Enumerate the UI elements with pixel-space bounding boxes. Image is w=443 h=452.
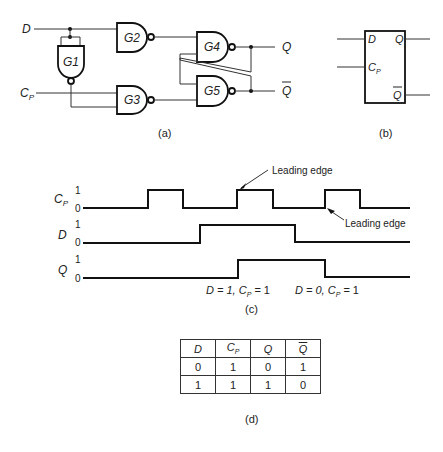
gate-g4-label: G4 — [204, 40, 220, 54]
q-low-label: 0 — [75, 273, 81, 284]
output-q-label: Q — [282, 40, 291, 54]
condition-label-1: D = 1, CP = 1 — [206, 284, 270, 298]
gate-g2-label: G2 — [124, 31, 140, 45]
leading-edge-label-2: Leading edge — [345, 218, 406, 229]
block-symbol-b: D CP Q Q (b) — [337, 31, 430, 139]
cell: 0 — [181, 358, 216, 376]
input-cp-label: CP — [20, 86, 35, 102]
header-qbar: Q — [286, 340, 321, 358]
pin-d-label: D — [368, 33, 376, 45]
circuit-a: D G1 CP G2 G3 G4 — [20, 22, 291, 139]
arrowhead — [239, 183, 246, 190]
header-cp: CP — [216, 340, 251, 358]
cell: 1 — [251, 376, 286, 394]
signal-cp-label: CP — [54, 192, 69, 208]
caption-b: (b) — [379, 127, 392, 139]
pin-q-label: Q — [395, 33, 404, 45]
leading-edge-label-1: Leading edge — [272, 165, 333, 176]
signal-q-label: Q — [58, 263, 67, 277]
timing-diagram-c: CP 1 0 D 1 0 Q 1 0 Leading edge Leading … — [54, 165, 410, 315]
signal-d-label: D — [58, 228, 67, 242]
table-row: 0 1 0 1 — [181, 358, 321, 376]
cp-high-label: 1 — [75, 185, 81, 196]
condition-label-2: D = 0, CP = 1 — [295, 284, 359, 298]
cell: 0 — [251, 358, 286, 376]
table-row: 1 1 1 0 — [181, 376, 321, 394]
waveform-cp — [83, 190, 410, 208]
caption-c: (c) — [245, 303, 258, 315]
truth-table-d: D CP Q Q 0 1 0 1 1 1 1 0 — [180, 339, 321, 394]
g3-bubble — [148, 97, 154, 103]
waveform-q — [83, 260, 410, 278]
output-qbar-label: Q — [282, 84, 291, 98]
g4-bubble — [229, 44, 235, 50]
header-q: Q — [251, 340, 286, 358]
caption-a: (a) — [158, 127, 171, 139]
d-high-label: 1 — [75, 219, 81, 230]
gate-g3-label: G3 — [124, 93, 140, 107]
gate-g1-label: G1 — [63, 55, 79, 69]
d-low-label: 0 — [75, 237, 81, 248]
g1-bubble — [68, 78, 74, 84]
gate-g5-label: G5 — [204, 84, 220, 98]
table-header-row: D CP Q Q — [181, 340, 321, 358]
cp-low-label: 0 — [75, 203, 81, 214]
cell: 1 — [181, 376, 216, 394]
g2-bubble — [148, 34, 154, 40]
cell: 1 — [286, 358, 321, 376]
caption-d: (d) — [245, 413, 258, 425]
header-d: D — [181, 340, 216, 358]
cell: 1 — [216, 358, 251, 376]
g5-bubble — [229, 88, 235, 94]
pin-qbar-label: Q — [393, 89, 402, 101]
wire-g1-out — [71, 84, 117, 107]
cell: 0 — [286, 376, 321, 394]
input-d-label: D — [22, 22, 31, 36]
cell: 1 — [216, 376, 251, 394]
q-high-label: 1 — [75, 254, 81, 265]
